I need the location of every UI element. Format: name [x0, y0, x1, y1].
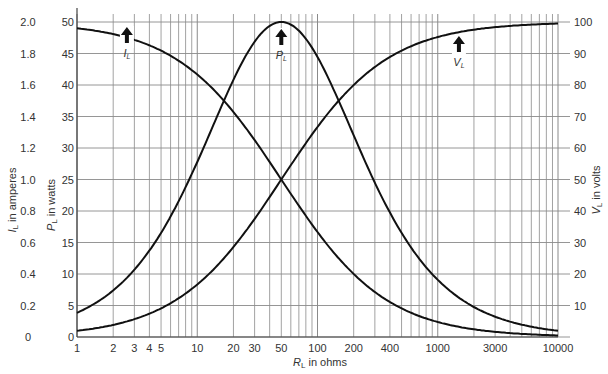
x-tick-label: 30	[248, 342, 260, 354]
x-tick-label: 50	[275, 342, 287, 354]
y-tick-label-current: 1.2	[20, 142, 35, 154]
annotation-label-v: VL	[453, 56, 464, 69]
y-tick-label-current: 0.8	[20, 205, 35, 217]
y-axis-current-ticks: 00.20.40.60.81.01.21.41.61.82.0	[20, 16, 35, 343]
y-tick-label-power: 30	[62, 142, 74, 154]
x-tick-label: 2	[110, 342, 116, 354]
y-tick-label-current: 0.2	[20, 300, 35, 312]
x-axis-title: RLin ohms	[293, 356, 347, 370]
curve-annotations: ILPLVL	[120, 26, 466, 69]
y-tick-label-voltage: 10	[574, 300, 586, 312]
y-tick-label-voltage: 100	[574, 16, 592, 28]
y-tick-label-voltage: 30	[574, 237, 586, 249]
y-tick-label-power: 0	[68, 331, 74, 343]
y-tick-label-current: 1.8	[20, 48, 35, 60]
y-tick-label-voltage: 80	[574, 79, 586, 91]
x-tick-label: 20	[227, 342, 239, 354]
max-power-transfer-chart: 12345102030501002004001000300010000 00.2…	[0, 0, 608, 374]
y-axis-power-ticks: 05101520253035404550	[62, 16, 74, 343]
y-tick-label-current: 0	[25, 331, 31, 343]
y-tick-label-power: 40	[62, 79, 74, 91]
annotation-label-p: PL	[276, 49, 287, 62]
y-tick-label-voltage: 90	[574, 48, 586, 60]
y-tick-label-power: 5	[68, 300, 74, 312]
y-tick-label-power: 25	[62, 174, 74, 186]
y-axis-voltage-ticks: 102030405060708090100	[574, 16, 592, 312]
x-tick-label: 10000	[543, 342, 574, 354]
y-tick-label-current: 0.6	[20, 237, 35, 249]
y-tick-label-voltage: 70	[574, 111, 586, 123]
y-tick-label-current: 0.4	[20, 268, 35, 280]
y-tick-label-current: 1.6	[20, 79, 35, 91]
y-tick-label-voltage: 40	[574, 205, 586, 217]
y-tick-label-current: 2.0	[20, 16, 35, 28]
x-tick-label: 400	[381, 342, 399, 354]
x-tick-label: 3000	[483, 342, 507, 354]
x-tick-label: 100	[308, 342, 326, 354]
x-tick-label: 5	[158, 342, 164, 354]
x-tick-label: 4	[146, 342, 152, 354]
x-tick-label: 3	[131, 342, 137, 354]
y-tick-label-voltage: 20	[574, 268, 586, 280]
y-axis-current-title: ILin amperes	[6, 167, 20, 232]
grid-lines	[77, 14, 570, 337]
x-tick-label: 200	[345, 342, 363, 354]
x-tick-label: 1	[74, 342, 80, 354]
y-tick-label-power: 50	[62, 16, 74, 28]
y-tick-label-power: 10	[62, 268, 74, 280]
y-axis-power-title: PLin watts	[45, 178, 59, 231]
y-tick-label-current: 1.0	[20, 174, 35, 186]
x-axis-ticks: 12345102030501002004001000300010000	[74, 342, 573, 354]
y-axis-voltage-title: VLin volts	[590, 165, 604, 215]
annotation-label-i: IL	[123, 47, 130, 60]
y-tick-label-power: 15	[62, 237, 74, 249]
x-tick-label: 1000	[426, 342, 450, 354]
y-tick-label-power: 20	[62, 205, 74, 217]
y-tick-label-power: 45	[62, 48, 74, 60]
y-tick-label-power: 35	[62, 111, 74, 123]
y-tick-label-current: 1.4	[20, 111, 35, 123]
y-tick-label-voltage: 50	[574, 174, 586, 186]
y-tick-label-voltage: 60	[574, 142, 586, 154]
x-tick-label: 10	[191, 342, 203, 354]
